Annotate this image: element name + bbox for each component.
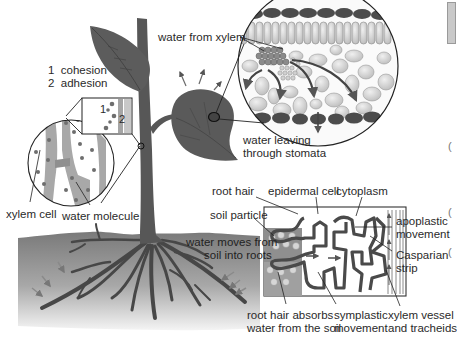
label-root-hair-absorbs-2: water from the soil: [247, 322, 341, 335]
label-cytoplasm: cytoplasm: [336, 185, 388, 198]
label-soil-particle: soil particle: [210, 209, 268, 222]
transpiration-arrows: [180, 70, 221, 90]
edge-mark-1: (: [448, 140, 452, 152]
inset-number-2: 2: [119, 113, 125, 126]
label-water-moves-2: soil into roots: [204, 249, 272, 262]
label-water-leaving-2: through stomata: [243, 147, 326, 160]
leaf-cross-section: [231, 0, 398, 146]
label-xylem-vessel-1: xylem vessel: [388, 309, 454, 322]
label-symplastic-1: symplastic: [334, 309, 388, 322]
label-adhesion: 2 adhesion: [48, 77, 107, 90]
inset-number-1: 1: [100, 103, 106, 116]
label-water-molecule: water molecule: [62, 210, 139, 223]
edge-mark-3: (: [448, 246, 452, 258]
label-water-from-xylem: water from xylem: [158, 31, 246, 44]
label-symplastic-2: movement: [334, 322, 388, 335]
label-casparian-1: Casparian: [396, 249, 448, 262]
right-leaf: [171, 89, 238, 160]
root-cross-section: [264, 207, 406, 296]
label-xylem-cell: xylem cell: [6, 208, 56, 221]
label-cohesion: 1 cohesion: [48, 64, 107, 77]
label-casparian-2: strip: [396, 262, 418, 275]
edge-mark-2: (: [448, 206, 452, 218]
stoma-highlight: [209, 113, 220, 122]
label-root-hair-absorbs-1: root hair absorbs: [247, 309, 333, 322]
label-root-hair: root hair: [212, 185, 254, 198]
label-apoplastic-2: movement: [396, 228, 450, 241]
label-xylem-vessel-2: and tracheids: [388, 322, 457, 335]
cropped-edge-panel: [447, 2, 456, 44]
label-apoplastic-1: apoplastic: [396, 215, 448, 228]
label-water-leaving-1: water leaving: [243, 134, 311, 147]
label-epidermal-cell: epidermal cell: [268, 185, 339, 198]
stem: [137, 18, 176, 244]
label-water-moves-1: water moves from: [186, 236, 277, 249]
